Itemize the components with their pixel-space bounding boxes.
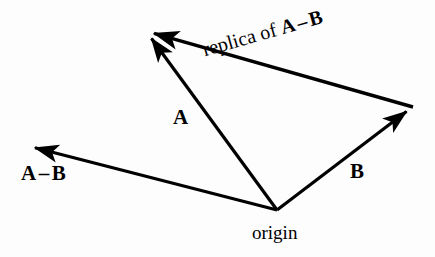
vector-a-minus-b-line: [35, 148, 277, 210]
origin-label: origin: [252, 223, 297, 242]
a-minus-b-term-b: B: [52, 161, 67, 185]
vector-diagram-figure: A B A–B replica of A–B origin: [0, 0, 435, 257]
vector-b-label: B: [350, 161, 365, 182]
a-minus-b-minus-sign: –: [37, 161, 52, 185]
vector-a-label: A: [173, 107, 189, 128]
vector-b-line: [277, 112, 407, 211]
a-minus-b-term-a: A: [21, 161, 37, 185]
vector-a-minus-b-label: A–B: [21, 163, 66, 184]
